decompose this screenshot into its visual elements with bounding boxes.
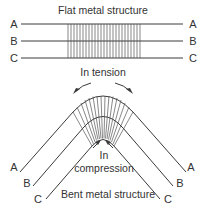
flat-label-left-a: A: [10, 18, 18, 30]
bent-label-left-c: C: [34, 193, 42, 205]
flat-title: Flat metal structure: [58, 4, 148, 16]
flat-label-left-c: C: [10, 52, 18, 64]
flat-label-right-b: B: [189, 35, 196, 47]
flat-label-left-b: B: [10, 35, 17, 47]
tension-arrowhead-right-icon: [126, 88, 133, 94]
tension-label: In tension: [80, 66, 126, 78]
bent-label-left-b: B: [23, 177, 30, 189]
bent-title: Bent metal structure: [61, 188, 155, 200]
bent-label-right-c: C: [164, 193, 172, 205]
compression-label-line2: compression: [74, 162, 134, 174]
metal-bending-diagram: Flat metal structure: [0, 0, 206, 215]
bent-label-right-a: A: [187, 161, 195, 173]
bent-structure: In tension: [10, 66, 195, 205]
tension-arrowhead-left-icon: [73, 88, 80, 94]
flat-structure: Flat metal structure: [10, 4, 197, 64]
bent-label-left-a: A: [10, 161, 18, 173]
bent-label-right-b: B: [176, 177, 183, 189]
compression-label-line1: In: [100, 149, 109, 161]
flat-label-right-c: C: [189, 52, 197, 64]
flat-label-right-a: A: [189, 18, 197, 30]
